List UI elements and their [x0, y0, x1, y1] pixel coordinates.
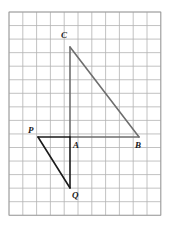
label-q: Q: [72, 191, 79, 200]
canvas-background: [0, 0, 174, 225]
geometry-figure: CPABQ: [0, 0, 174, 225]
label-b: B: [135, 141, 141, 150]
label-c: C: [61, 31, 67, 40]
label-p: P: [28, 126, 34, 135]
figure-canvas: [0, 0, 174, 225]
label-a: A: [73, 141, 79, 150]
